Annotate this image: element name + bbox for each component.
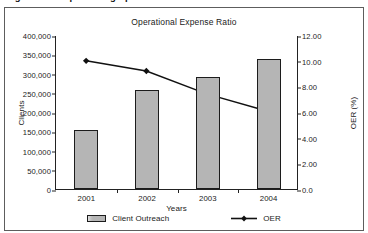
x-axis-tick-label: 2003 <box>199 194 217 203</box>
chart-title: Operational Expense Ratio <box>5 17 363 27</box>
chart-legend: Client Outreach OER <box>5 214 363 223</box>
x-axis-tick-label: 2004 <box>260 194 278 203</box>
line-diamond-icon <box>231 214 257 223</box>
y-axis-tick-left: 300,000 <box>23 70 56 79</box>
y-axis-tick-left: 250,000 <box>23 89 56 98</box>
x-axis-tick-label: 2001 <box>78 194 96 203</box>
legend-label-oer: OER <box>263 214 281 223</box>
figure-screenshot: Figure 3. Sample OER graph Operational E… <box>0 0 368 233</box>
y-axis-tick-left: 100,000 <box>23 147 56 156</box>
oer-data-point-marker <box>143 68 149 74</box>
y-axis-tick-left: 350,000 <box>23 51 56 60</box>
figure-frame: Operational Expense Ratio Clients OER (%… <box>4 7 364 231</box>
bar-client-outreach <box>257 59 281 189</box>
y-axis-tick-right: 6.00 <box>297 109 317 118</box>
y-axis-title-right: OER (%) <box>349 36 361 190</box>
y-axis-tick-right: 4.00 <box>297 134 317 143</box>
y-axis-tick-left: 0 <box>47 186 56 195</box>
x-axis-tick <box>238 189 239 193</box>
y-axis-tick-right: 8.00 <box>297 83 317 92</box>
plot-inner: 050,000100,000150,000200,000250,000300,0… <box>56 36 297 189</box>
plot-area: 050,000100,000150,000200,000250,000300,0… <box>55 36 298 190</box>
bar-client-outreach <box>196 77 220 189</box>
legend-item-oer: OER <box>231 214 281 223</box>
y-axis-tick-left: 200,000 <box>23 109 56 118</box>
x-axis-tick-label: 2002 <box>138 194 156 203</box>
oer-line-path <box>86 61 267 111</box>
y-axis-tick-right: 0.0 <box>297 186 313 195</box>
oer-data-point-marker <box>83 58 89 64</box>
bar-client-outreach <box>135 90 159 189</box>
x-axis-tick <box>117 189 118 193</box>
y-axis-tick-left: 150,000 <box>23 128 56 137</box>
x-axis-tick <box>178 189 179 193</box>
y-axis-tick-right: 2.00 <box>297 160 317 169</box>
y-axis-tick-right: 10.00 <box>297 57 322 66</box>
y-axis-tick-right: 12.00 <box>297 32 322 41</box>
y-axis-tick-left: 400,000 <box>23 32 56 41</box>
y-axis-tick-left: 50,000 <box>27 166 56 175</box>
legend-item-client-outreach: Client Outreach <box>87 214 169 223</box>
x-axis-title: Years <box>55 204 298 213</box>
figure-caption: Figure 3. Sample OER graph <box>6 0 346 5</box>
legend-label-client-outreach: Client Outreach <box>112 214 169 223</box>
bar-swatch-icon <box>87 215 106 222</box>
bar-client-outreach <box>74 130 98 189</box>
